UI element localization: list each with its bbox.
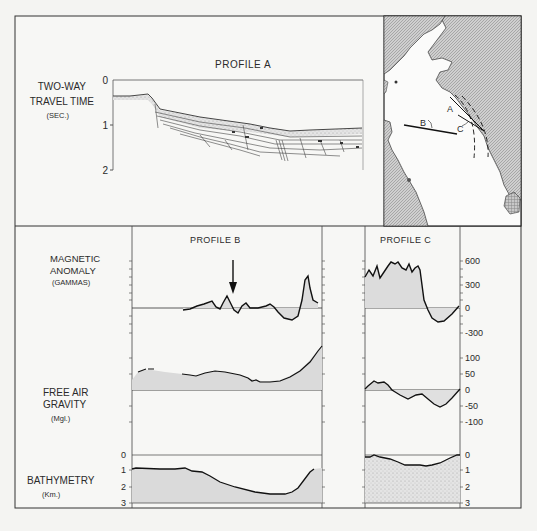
location-map: A B C	[384, 16, 521, 226]
bathymetry-label: BATHYMETRY	[27, 475, 95, 486]
profile-c-title: PROFILE C	[380, 235, 431, 245]
gravity-label-2: GRAVITY	[43, 399, 86, 410]
map-label-b: B	[420, 118, 426, 128]
gravity-tick-neg100: -100	[465, 417, 483, 427]
bathymetry-units: (Km.)	[42, 490, 61, 499]
magnetic-tick-300: 300	[465, 280, 480, 290]
gravity-label-1: FREE AIR	[43, 387, 89, 398]
map-label-a: A	[447, 104, 453, 114]
bathy-left-tick-2: 2	[121, 482, 126, 492]
magnetic-tick-600: 600	[465, 256, 480, 266]
bathy-right-tick-1: 1	[465, 465, 470, 475]
magnetic-tick-0: 0	[465, 303, 470, 313]
figure: PROFILE A TWO-WAY TRAVEL TIME (SEC.) 0 1…	[0, 0, 537, 531]
bathy-left-tick-3: 3	[121, 498, 126, 508]
gravity-units: (Mgl.)	[51, 414, 71, 423]
profile-a-ytick: 2	[102, 165, 108, 176]
magnetic-label-1: MAGNETIC	[50, 253, 100, 264]
bathy-right-tick-2: 2	[465, 482, 470, 492]
profile-b-title: PROFILE B	[190, 235, 241, 245]
profile-a-ylabel-1: TWO-WAY	[38, 81, 87, 92]
bathy-left-tick-1: 1	[121, 465, 126, 475]
bathy-right-tick-0: 0	[465, 450, 470, 460]
magnetic-units: (GAMMAS)	[52, 278, 91, 287]
gravity-tick-neg50: -50	[465, 401, 478, 411]
gravity-tick-0: 0	[465, 385, 470, 395]
magnetic-label-2: ANOMALY	[50, 265, 96, 276]
profile-a-ylabel-2: TRAVEL TIME	[30, 96, 95, 107]
gravity-tick-50: 50	[465, 369, 475, 379]
bathy-left-tick-0: 0	[121, 450, 126, 460]
magnetic-tick-neg300: -300	[465, 328, 483, 338]
profile-a-ylabel-units: (SEC.)	[47, 111, 70, 120]
profile-a-ytick: 1	[102, 120, 108, 131]
gravity-tick-100: 100	[465, 353, 480, 363]
profile-a-ytick: 0	[102, 75, 108, 86]
profile-a-title: PROFILE A	[215, 59, 271, 70]
bathy-right-tick-3: 3	[465, 498, 470, 508]
